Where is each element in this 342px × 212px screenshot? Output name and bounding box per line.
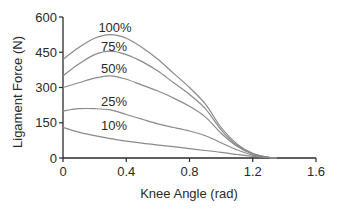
x-tick-label: 1.6 xyxy=(307,164,325,179)
y-tick-label: 0 xyxy=(50,151,57,166)
series-line-50pct xyxy=(63,76,277,158)
x-tick-label: 0.4 xyxy=(117,164,135,179)
y-tick-label: 600 xyxy=(35,10,57,25)
series-label: 100% xyxy=(98,20,132,35)
y-tick-label: 150 xyxy=(35,115,57,130)
x-tick-label: 0 xyxy=(59,164,66,179)
x-tick-label: 1.2 xyxy=(244,164,262,179)
series-lines xyxy=(63,35,277,158)
series-label: 25% xyxy=(101,94,127,109)
y-tick-label: 300 xyxy=(35,80,57,95)
series-label: 75% xyxy=(101,39,127,54)
x-axis-label: Knee Angle (rad) xyxy=(140,186,238,201)
series-label: 10% xyxy=(101,118,127,133)
series-line-75pct xyxy=(63,51,277,158)
series-label: 50% xyxy=(101,61,127,76)
axes: 015030045060000.40.81.21.6 xyxy=(35,10,325,180)
x-tick-label: 0.8 xyxy=(180,164,198,179)
y-axis-label: Ligament Force (N) xyxy=(10,36,25,148)
ligament-force-chart: 015030045060000.40.81.21.6 100%75%50%25%… xyxy=(0,0,342,212)
series-line-10pct xyxy=(63,127,277,158)
y-tick-label: 450 xyxy=(35,45,57,60)
